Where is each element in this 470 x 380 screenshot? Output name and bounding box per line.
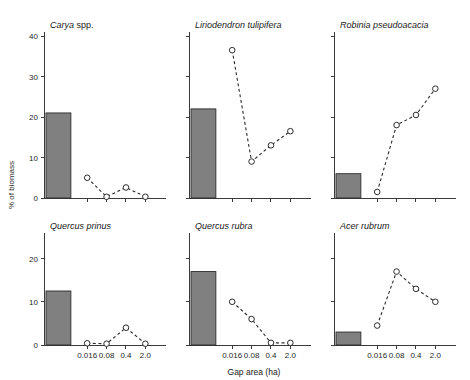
x-tick-label: 0.08 <box>99 351 115 360</box>
gap-series-line <box>377 272 435 326</box>
forest-bar <box>191 109 216 198</box>
x-tick-label: 0.4 <box>410 351 422 360</box>
data-point-marker <box>268 143 274 149</box>
y-tick-label: 0 <box>34 341 39 350</box>
panel-6: Acer rubrum0.0160.080.42.0 <box>331 221 457 360</box>
data-point-marker <box>374 323 380 329</box>
data-point-marker <box>413 112 419 118</box>
data-point-marker <box>374 189 380 195</box>
panel-2: Liriodendron tulipifera <box>186 20 312 202</box>
x-tick-label: 0.016 <box>367 351 388 360</box>
x-tick-label: 0.4 <box>120 351 132 360</box>
data-point-marker <box>123 325 129 331</box>
gap-series-line <box>377 89 435 192</box>
x-tick-label: 2.0 <box>430 351 442 360</box>
data-point-marker <box>143 341 149 347</box>
panel-title: Acer rubrum <box>339 221 390 231</box>
y-tick-label: 0 <box>34 194 39 203</box>
gap-series-line <box>87 328 145 344</box>
x-tick-label: 2.0 <box>140 351 152 360</box>
x-axis-title: Gap area (ha) <box>228 367 281 377</box>
data-point-marker <box>104 341 110 347</box>
data-point-marker <box>249 316 255 322</box>
data-point-marker <box>268 340 274 346</box>
data-point-marker <box>249 159 255 165</box>
data-point-marker <box>433 86 439 92</box>
data-point-marker <box>413 286 419 292</box>
panel-title: Quercus rubra <box>195 221 253 231</box>
panel-title: Robinia pseudoacacia <box>340 20 429 30</box>
y-tick-label: 40 <box>29 32 38 41</box>
x-tick-label: 0.4 <box>265 351 277 360</box>
forest-bar <box>46 291 71 345</box>
y-tick-label: 20 <box>29 255 38 264</box>
panel-3: Robinia pseudoacacia <box>331 20 457 202</box>
figure-container: Carya spp.010203040Liriodendron tulipife… <box>0 0 470 380</box>
gap-series-line <box>232 302 290 343</box>
y-axis-title: % of biomass <box>7 161 16 209</box>
x-tick-label: 2.0 <box>285 351 297 360</box>
forest-bar <box>336 332 361 345</box>
y-tick-label: 20 <box>29 113 38 122</box>
data-point-marker <box>229 47 235 53</box>
x-tick-label: 0.016 <box>77 351 98 360</box>
data-point-marker <box>288 128 294 134</box>
multi-panel-chart: Carya spp.010203040Liriodendron tulipife… <box>0 0 470 380</box>
data-point-marker <box>433 299 439 305</box>
data-point-marker <box>104 194 110 200</box>
forest-bar <box>191 272 216 345</box>
forest-bar <box>336 174 361 198</box>
data-point-marker <box>123 185 129 191</box>
data-point-marker <box>143 194 149 200</box>
y-tick-label: 30 <box>29 73 38 82</box>
x-tick-label: 0.08 <box>244 351 260 360</box>
gap-series-line <box>87 178 145 197</box>
x-tick-label: 0.08 <box>389 351 405 360</box>
x-tick-label: 0.016 <box>222 351 243 360</box>
data-point-marker <box>394 269 400 275</box>
y-tick-label: 10 <box>29 154 38 163</box>
panel-4: Quercus prinus010200.0160.080.42.0 <box>29 221 166 360</box>
panel-title: Carya spp. <box>50 20 94 30</box>
data-point-marker <box>394 122 400 128</box>
panel-title: Quercus prinus <box>50 221 112 231</box>
forest-bar <box>46 113 71 198</box>
data-point-marker <box>288 340 294 346</box>
panel-1: Carya spp.010203040 <box>29 20 166 203</box>
y-tick-label: 10 <box>29 298 38 307</box>
data-point-marker <box>84 175 90 181</box>
data-point-marker <box>84 340 90 346</box>
panel-5: Quercus rubra0.0160.080.42.0Gap area (ha… <box>186 221 312 377</box>
gap-series-line <box>232 50 290 161</box>
panel-title: Liriodendron tulipifera <box>195 20 282 30</box>
data-point-marker <box>229 299 235 305</box>
